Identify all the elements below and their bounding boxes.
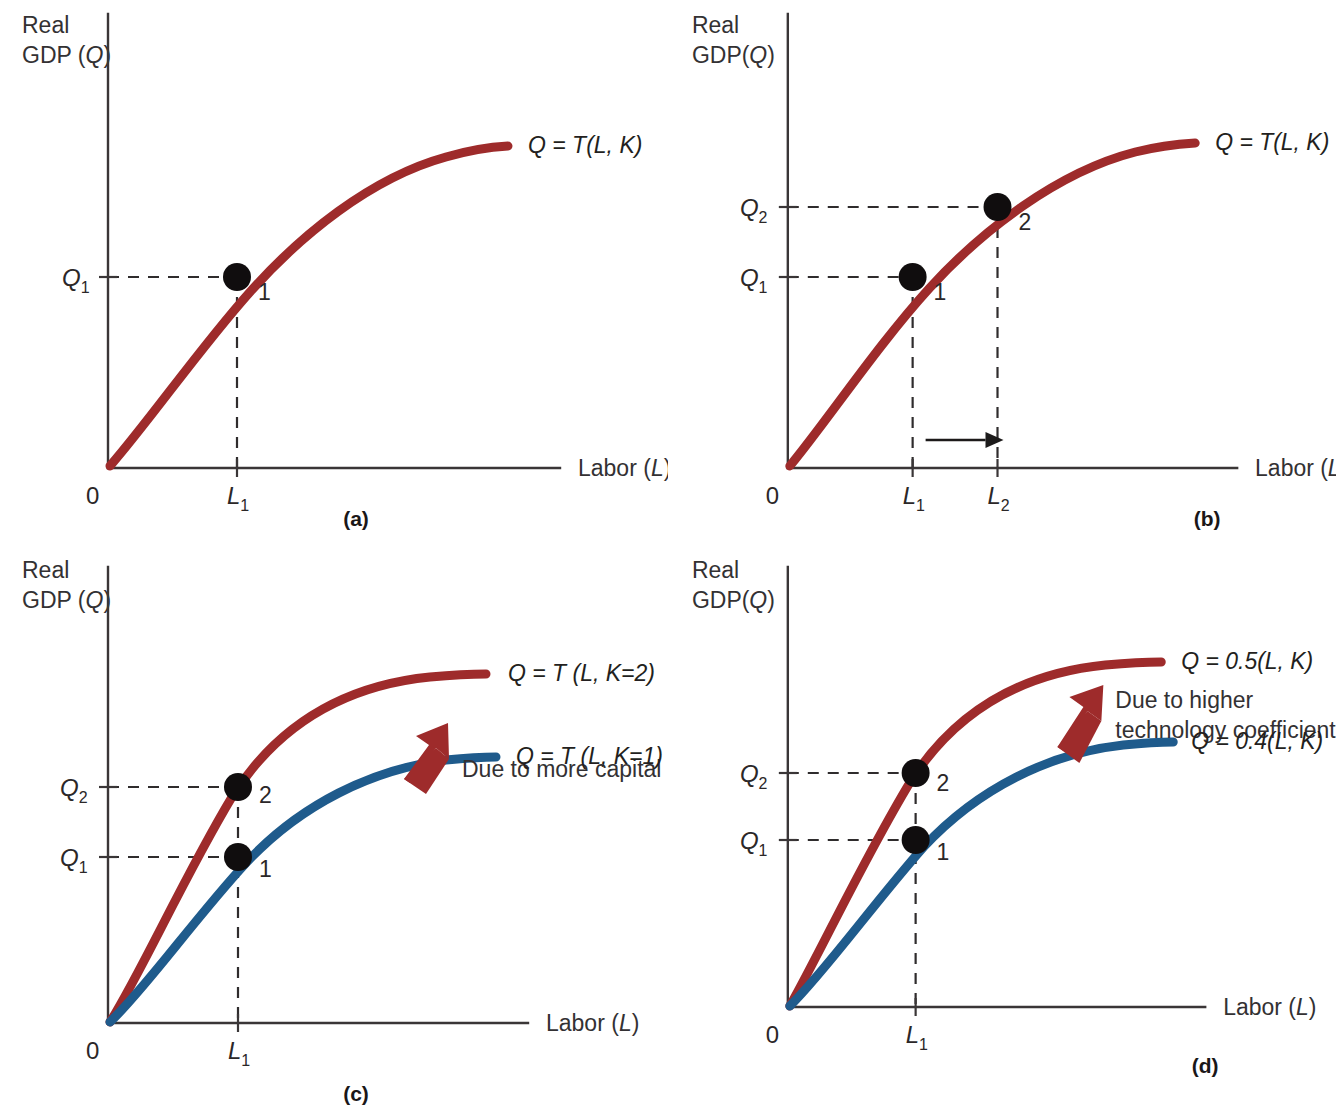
- point-label-2: 2: [1018, 209, 1031, 235]
- point-marker-1: [224, 843, 252, 871]
- panel-caption-c: (c): [343, 1082, 369, 1105]
- origin-label: 0: [86, 1037, 99, 1064]
- curve-production-function-low-tech: [790, 742, 1173, 1006]
- curve-production-function-high-tech: [790, 662, 1161, 1006]
- y-axis-title-line1: Real: [22, 12, 69, 38]
- x-axis-title: Labor (L): [1255, 455, 1336, 481]
- panel-a: Real GDP (Q) Labor (L) 1 Q = T(L, K) Q1 …: [0, 0, 668, 556]
- y-axis-title-line2: GDP(Q): [692, 587, 775, 613]
- curve-label-low-tech: Q = 0.4(L, K): [1191, 728, 1323, 754]
- y-axis-title-line1: Real: [22, 557, 69, 583]
- point-label-1: 1: [258, 279, 271, 305]
- point-marker-2: [984, 193, 1012, 221]
- y-tick-label-q2: Q2: [740, 194, 768, 226]
- curve-label-k1: Q = T (L, K=1): [516, 743, 663, 769]
- curve-production-function: [110, 146, 508, 466]
- y-tick-label-q2: Q2: [60, 774, 88, 806]
- shift-up-arrow: [404, 723, 449, 794]
- point-marker-1: [899, 263, 927, 291]
- curve-production-function-k1: [110, 757, 496, 1022]
- x-tick-label-l1: L1: [903, 482, 925, 514]
- panel-caption-d: (d): [1192, 1054, 1219, 1077]
- y-tick-label-q1: Q1: [60, 844, 88, 876]
- curve-production-function-k2: [110, 674, 486, 1022]
- curve-label-k2: Q = T (L, K=2): [508, 660, 655, 686]
- x-tick-label-l1: L1: [227, 482, 249, 514]
- y-tick-label-q1: Q1: [740, 264, 768, 296]
- panel-caption-a: (a): [343, 507, 369, 530]
- curve-label-high-tech: Q = 0.5(L, K): [1181, 648, 1313, 674]
- origin-label: 0: [766, 482, 779, 509]
- labor-increase-arrow-head: [986, 432, 1004, 448]
- point-marker-2: [902, 759, 930, 787]
- curve-production-function: [790, 143, 1195, 466]
- panel-caption-b: (b): [1194, 507, 1221, 530]
- point-label-2: 2: [937, 770, 950, 796]
- point-label-1: 1: [259, 856, 272, 882]
- figure-four-panel-production-function: Real GDP (Q) Labor (L) 1 Q = T(L, K) Q1 …: [0, 0, 1337, 1113]
- y-axis-title-line2: GDP (Q): [22, 42, 111, 68]
- point-marker-2: [224, 773, 252, 801]
- panel-d: Real GDP(Q) Labor (L) 2 1: [668, 545, 1336, 1113]
- shift-up-arrow-text-line1: Due to higher: [1115, 687, 1253, 713]
- x-tick-label-l2: L2: [988, 482, 1010, 514]
- point-label-1: 1: [937, 839, 950, 865]
- panel-b: Real GDP(Q) Labor (L) 1 2 Q = T(L, K): [668, 0, 1336, 556]
- y-tick-label-q1: Q1: [740, 827, 768, 859]
- x-axis-title: Labor (L): [546, 1010, 639, 1036]
- x-tick-label-l1: L1: [228, 1037, 250, 1069]
- point-marker-1: [223, 263, 251, 291]
- y-tick-label-q1: Q1: [62, 264, 90, 296]
- origin-label: 0: [86, 482, 99, 509]
- y-tick-label-q2: Q2: [740, 760, 768, 792]
- panel-c: Real GDP (Q) Labor (L) 2 1: [0, 545, 668, 1113]
- point-label-1: 1: [934, 279, 947, 305]
- y-axis-title-line1: Real: [692, 12, 739, 38]
- x-tick-label-l1: L1: [906, 1021, 928, 1053]
- y-axis-title-line2: GDP (Q): [22, 587, 111, 613]
- origin-label: 0: [766, 1021, 779, 1048]
- point-marker-1: [902, 826, 930, 854]
- x-axis-title: Labor (L): [1223, 994, 1316, 1020]
- curve-label-production-function: Q = T(L, K): [1215, 129, 1329, 155]
- y-axis-title-line1: Real: [692, 557, 739, 583]
- point-label-2: 2: [259, 782, 272, 808]
- y-axis-title-line2: GDP(Q): [692, 42, 775, 68]
- x-axis-title: Labor (L): [578, 455, 668, 481]
- curve-label-production-function: Q = T(L, K): [528, 132, 642, 158]
